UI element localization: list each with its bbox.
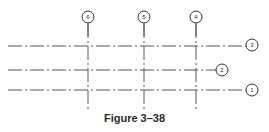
grid-bubble-2: 2 (216, 64, 228, 76)
figure-caption: Figure 3–38 (0, 112, 269, 124)
grid-bubble-6: 6 (82, 11, 94, 23)
grid-bubble-1: 1 (246, 84, 258, 96)
grid-bubble-5: 5 (138, 11, 150, 23)
grid-bubble-3: 3 (246, 39, 258, 51)
grid-bubble-4: 4 (190, 11, 202, 23)
